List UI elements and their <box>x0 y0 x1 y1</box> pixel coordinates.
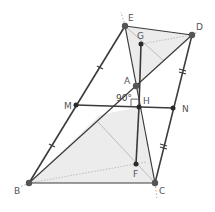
label-M: M <box>64 101 72 111</box>
point-G <box>139 42 144 47</box>
angle-label-90: 90° <box>116 93 132 103</box>
label-B: B <box>14 186 20 196</box>
label-H: H <box>143 96 150 106</box>
point-F <box>134 162 139 167</box>
point-E[interactable] <box>122 23 128 29</box>
point-A[interactable] <box>133 83 139 89</box>
label-G: G <box>137 31 144 41</box>
label-F: F <box>133 169 138 179</box>
label-E: E <box>128 13 134 23</box>
geometry-diagram: 90° E D G A H M N F B C <box>0 0 215 212</box>
tick-NC-1 <box>160 144 167 146</box>
segment-MN <box>76 105 173 108</box>
point-D[interactable] <box>189 32 195 38</box>
label-C: C <box>159 186 165 196</box>
label-N: N <box>182 104 189 114</box>
label-D: D <box>196 22 203 32</box>
point-H <box>137 105 142 110</box>
point-C[interactable] <box>152 180 158 186</box>
point-N <box>171 106 176 111</box>
label-A: A <box>124 76 131 86</box>
point-B[interactable] <box>26 180 32 186</box>
point-M <box>74 103 79 108</box>
